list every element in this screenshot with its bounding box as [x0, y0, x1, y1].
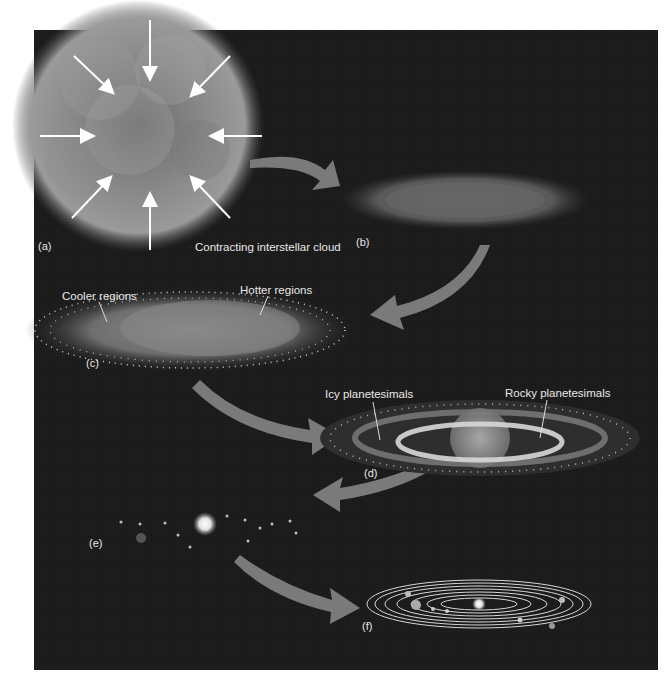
stage-tag-c: (c) [86, 357, 99, 369]
caption-contracting-cloud: Contracting interstellar cloud [195, 241, 341, 253]
label-cooler-regions: Cooler regions [62, 290, 137, 302]
stage-tag-f: (f) [362, 620, 372, 632]
label-rocky-planetesimals: Rocky planetesimals [505, 387, 610, 399]
interstellar-cloud [12, 0, 264, 252]
stage-tag-b: (b) [356, 236, 369, 248]
stage-tag-e: (e) [89, 537, 102, 549]
stage-tag-d: (d) [364, 467, 377, 479]
disk-d [320, 400, 640, 476]
diagram-artwork [0, 0, 672, 684]
label-hotter-regions: Hotter regions [240, 284, 312, 296]
label-icy-planetesimals: Icy planetesimals [325, 388, 413, 400]
stage-tag-a: (a) [38, 240, 51, 252]
protosun-e [120, 512, 298, 549]
